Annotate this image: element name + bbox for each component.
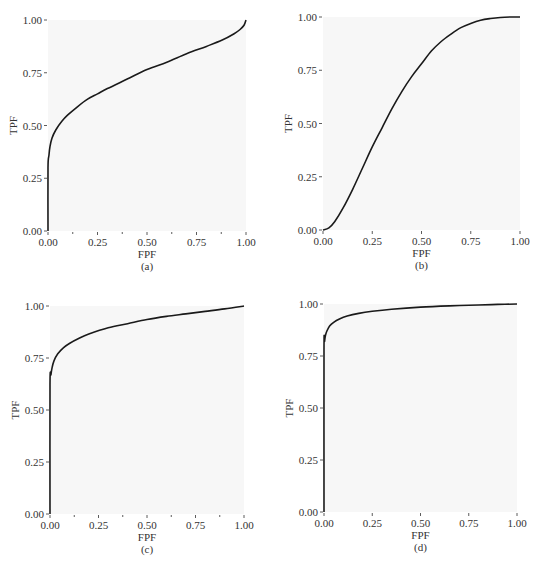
- y-axis-title: TPF: [283, 399, 295, 418]
- x-tick-label: 0.50: [411, 517, 431, 529]
- x-tick-label: 1.00: [507, 517, 527, 529]
- x-tick-label: 0.75: [461, 235, 481, 247]
- x-tick-label: 0.50: [412, 235, 432, 247]
- panel-a: 0.000.250.500.751.000.000.250.500.751.00…: [7, 14, 256, 273]
- x-tick-label: 0.25: [363, 517, 383, 529]
- x-tick-label: 0.25: [89, 519, 109, 531]
- y-tick-label: 0.75: [299, 350, 319, 362]
- x-tick-label: 0.75: [186, 519, 206, 531]
- panel-d: 0.000.250.500.751.000.000.250.500.751.00…: [283, 298, 527, 554]
- y-tick-label: 0.25: [298, 171, 318, 183]
- x-axis-title: FPF: [411, 529, 429, 541]
- panel-caption: (a): [141, 260, 154, 273]
- y-tick-label: 1.00: [299, 298, 319, 310]
- y-tick-label: 0.50: [299, 402, 319, 414]
- plot-area: [324, 304, 517, 512]
- panel-caption: (c): [141, 543, 154, 556]
- x-tick-label: 1.00: [234, 519, 254, 531]
- y-tick-label: 0.50: [25, 404, 45, 416]
- y-axis-title: TPF: [282, 114, 294, 133]
- x-tick-label: 0.25: [88, 236, 108, 248]
- y-tick-label: 1.00: [25, 300, 45, 312]
- y-tick-label: 1.00: [298, 11, 318, 23]
- x-axis-title: FPF: [412, 247, 430, 259]
- roc-figure: 0.000.250.500.751.000.000.250.500.751.00…: [0, 0, 543, 569]
- y-tick-label: 0.75: [25, 352, 45, 364]
- plot-area: [323, 17, 520, 230]
- y-axis-title: TPF: [9, 401, 21, 420]
- y-tick-label: 0.50: [23, 120, 43, 132]
- panel-caption: (d): [414, 541, 427, 554]
- x-tick-label: 0.00: [40, 519, 60, 531]
- y-tick-label: 0.25: [299, 454, 319, 466]
- panel-b: 0.000.250.500.751.000.000.250.500.751.00…: [282, 11, 530, 272]
- y-tick-label: 0.25: [25, 456, 45, 468]
- x-axis-title: FPF: [138, 531, 156, 543]
- x-tick-label: 1.00: [510, 235, 530, 247]
- x-tick-label: 0.00: [38, 236, 58, 248]
- x-tick-label: 1.00: [236, 236, 256, 248]
- plot-area: [48, 20, 246, 231]
- x-tick-label: 0.00: [314, 517, 334, 529]
- x-tick-label: 0.50: [137, 519, 157, 531]
- plot-area: [50, 306, 244, 514]
- x-tick-label: 0.75: [459, 517, 479, 529]
- y-tick-label: 0.75: [298, 64, 318, 76]
- x-tick-label: 0.50: [137, 236, 157, 248]
- y-tick-label: 1.00: [23, 14, 43, 26]
- x-tick-label: 0.75: [187, 236, 207, 248]
- x-tick-label: 0.25: [363, 235, 383, 247]
- y-tick-label: 0.25: [23, 172, 43, 184]
- x-axis-title: FPF: [138, 248, 156, 260]
- y-axis-title: TPF: [7, 116, 19, 135]
- panel-caption: (b): [415, 259, 428, 272]
- x-tick-label: 0.00: [313, 235, 333, 247]
- y-tick-label: 0.75: [23, 67, 43, 79]
- y-tick-label: 0.50: [298, 118, 318, 130]
- panel-c: 0.000.250.500.751.000.000.250.500.751.00…: [9, 300, 254, 556]
